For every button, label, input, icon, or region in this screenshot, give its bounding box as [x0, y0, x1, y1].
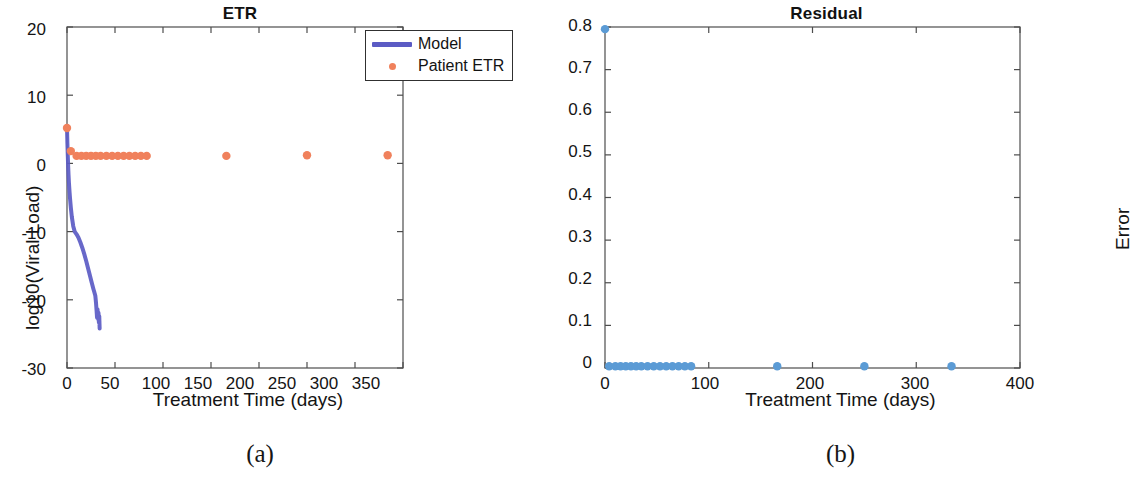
- residual-plot-canvas: [540, 0, 1113, 488]
- y-axis-label-residual: Error: [1112, 208, 1134, 250]
- legend-etr: Model Patient ETR: [365, 30, 513, 81]
- panel-a-etr: ETR 20 10 0 -10 -20 -30 0 50 100 150 200…: [0, 0, 540, 488]
- legend-label-patient-etr: Patient ETR: [418, 57, 504, 75]
- figure-caption-b: (b): [554, 440, 1127, 468]
- figure-caption-a: (a): [0, 440, 530, 468]
- legend-item-patient-etr: Patient ETR: [372, 56, 504, 76]
- panel-b-residual: Residual 0.8 0.7 0.6 0.5 0.4 0.3 0.2 0.1…: [540, 0, 1113, 488]
- legend-line-swatch-icon: [372, 42, 412, 47]
- legend-label-model: Model: [418, 35, 462, 53]
- legend-dot-swatch-icon: [372, 63, 412, 70]
- legend-item-model: Model: [372, 34, 504, 54]
